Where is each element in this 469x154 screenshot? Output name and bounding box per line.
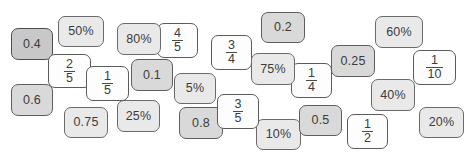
- card-3-4[interactable]: 34: [211, 35, 252, 70]
- fraction-denominator: 5: [64, 71, 75, 85]
- card-1-5[interactable]: 15: [86, 66, 129, 101]
- fraction-numerator: 1: [429, 54, 440, 67]
- card-0-75[interactable]: 0.75: [64, 107, 108, 138]
- card-1-10[interactable]: 110: [413, 50, 456, 85]
- fraction-denominator: 10: [426, 67, 444, 81]
- fraction-numerator: 1: [306, 67, 317, 80]
- card-label: 0.2: [274, 21, 292, 34]
- card-label: 80%: [126, 33, 152, 46]
- card-label: 0.5: [312, 114, 330, 127]
- fraction-numerator: 4: [172, 27, 183, 40]
- fraction-value: 15: [102, 70, 113, 97]
- card-label: 0.8: [192, 117, 210, 130]
- card-0-5[interactable]: 0.5: [299, 105, 342, 136]
- card-label: 0.75: [73, 116, 98, 129]
- card-40pct[interactable]: 40%: [371, 79, 415, 111]
- fraction-denominator: 5: [102, 83, 113, 97]
- card-label: 25%: [126, 110, 152, 123]
- fraction-denominator: 4: [226, 52, 237, 66]
- card-75pct[interactable]: 75%: [251, 53, 295, 85]
- card-label: 10%: [266, 128, 292, 141]
- card-0-2[interactable]: 0.2: [261, 12, 305, 43]
- fraction-denominator: 4: [306, 80, 317, 94]
- fraction-numerator: 1: [102, 70, 113, 83]
- fraction-value: 35: [233, 98, 244, 125]
- fraction-numerator: 3: [226, 39, 237, 52]
- card-1-4[interactable]: 14: [291, 63, 332, 98]
- fraction-numerator: 2: [64, 58, 75, 71]
- card-20pct[interactable]: 20%: [419, 107, 464, 138]
- fraction-value: 14: [306, 67, 317, 94]
- card-0-4[interactable]: 0.4: [11, 28, 53, 60]
- card-0-6[interactable]: 0.6: [11, 84, 53, 116]
- card-50pct[interactable]: 50%: [58, 16, 104, 47]
- card-10pct[interactable]: 10%: [256, 119, 301, 150]
- card-1-2[interactable]: 12: [347, 114, 388, 149]
- fraction-denominator: 5: [233, 111, 244, 125]
- card-label: 0.25: [340, 55, 365, 68]
- card-label: 40%: [380, 89, 406, 102]
- card-3-5[interactable]: 35: [217, 94, 259, 129]
- card-label: 5%: [186, 82, 204, 95]
- card-label: 75%: [260, 63, 286, 76]
- fraction-value: 25: [64, 58, 75, 85]
- fraction-denominator: 2: [362, 131, 373, 145]
- fraction-value: 34: [226, 39, 237, 66]
- card-label: 50%: [68, 25, 94, 38]
- fraction-denominator: 5: [172, 40, 183, 54]
- card-label: 0.1: [143, 69, 161, 82]
- fraction-value: 45: [172, 27, 183, 54]
- card-label: 0.6: [23, 94, 41, 107]
- card-0-1[interactable]: 0.1: [131, 59, 173, 91]
- card-60pct[interactable]: 60%: [375, 16, 423, 48]
- card-0-25[interactable]: 0.25: [331, 45, 375, 77]
- fraction-numerator: 1: [362, 118, 373, 131]
- card-label: 60%: [386, 26, 412, 39]
- card-label: 20%: [429, 116, 455, 129]
- card-25pct[interactable]: 25%: [117, 100, 160, 132]
- card-80pct[interactable]: 80%: [117, 23, 161, 55]
- card-2-5[interactable]: 25: [48, 54, 91, 88]
- fraction-value: 12: [362, 118, 373, 145]
- value-card-board: 0.450%25150.60.7525%80%450.15%0.83510%34…: [0, 0, 469, 154]
- fraction-numerator: 3: [233, 98, 244, 111]
- card-label: 0.4: [23, 38, 41, 51]
- fraction-value: 110: [426, 54, 444, 81]
- card-5pct[interactable]: 5%: [174, 73, 216, 104]
- card-4-5[interactable]: 45: [157, 23, 198, 58]
